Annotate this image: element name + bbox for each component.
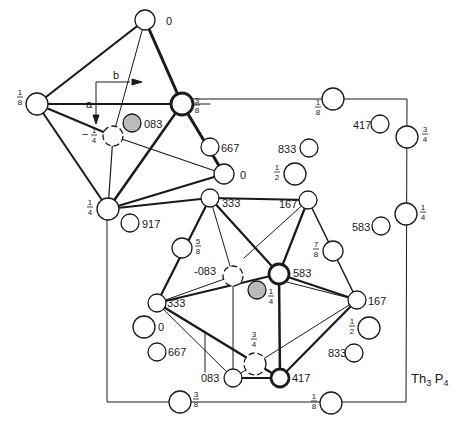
atom-label: 0 xyxy=(166,15,172,27)
axis-b-label: b xyxy=(113,69,119,81)
atom-free-half-a xyxy=(284,163,306,185)
atom-label: 667 xyxy=(221,142,239,154)
atom-label: 917 xyxy=(142,218,160,230)
atom-label: 0 xyxy=(158,321,164,333)
atom-poly-3-4 xyxy=(244,353,266,375)
atom-label: 833 xyxy=(278,143,296,155)
svg-text:3: 3 xyxy=(194,390,199,399)
atom-poly-583 xyxy=(269,264,289,284)
fraction-label: 18 xyxy=(17,88,23,107)
atom-poly-333-top xyxy=(201,189,219,207)
svg-text:4: 4 xyxy=(421,213,426,222)
atom-label: 583 xyxy=(293,267,311,279)
svg-text:1: 1 xyxy=(350,317,355,326)
svg-text:3: 3 xyxy=(252,330,257,339)
atom-oct-left xyxy=(26,93,48,115)
svg-text:7: 7 xyxy=(314,240,319,249)
svg-text:4: 4 xyxy=(423,135,428,144)
svg-text:4: 4 xyxy=(92,136,97,145)
atom-label: 0 xyxy=(240,169,246,181)
atom-shaded-1-4 xyxy=(248,281,266,299)
fraction-label: 78 xyxy=(313,240,319,259)
atom-bottom-1-8 xyxy=(320,392,342,414)
svg-text:8: 8 xyxy=(195,106,200,115)
atom-label: 667 xyxy=(168,346,186,358)
atom-label: 833 xyxy=(328,347,346,359)
svg-text:1: 1 xyxy=(275,163,280,172)
svg-text:8: 8 xyxy=(18,98,23,107)
svg-text:1: 1 xyxy=(269,287,274,296)
atom-free-583 xyxy=(372,217,390,235)
atom-poly-167-right xyxy=(348,291,366,309)
crystal-structure-diagram: b a xyxy=(0,0,457,421)
atom-label: 417 xyxy=(353,119,371,131)
b-arrow-icon xyxy=(132,79,142,85)
svg-text:8: 8 xyxy=(316,108,321,117)
atom-label: 333 xyxy=(167,297,185,309)
svg-text:5: 5 xyxy=(196,237,201,246)
atom-label: 167 xyxy=(368,295,386,307)
svg-text:1: 1 xyxy=(312,392,317,401)
svg-text:8: 8 xyxy=(194,400,199,409)
svg-text:3: 3 xyxy=(423,125,428,134)
atom-label: -083 xyxy=(194,265,216,277)
compound-title: Th3 P4 xyxy=(411,371,449,388)
svg-text:−: − xyxy=(82,128,88,140)
atom-poly-167-top xyxy=(299,191,317,209)
fraction-label: 18 xyxy=(311,392,317,411)
svg-text:1: 1 xyxy=(18,88,23,97)
atom-bottom-3-8 xyxy=(169,391,191,413)
structure-svg: b a xyxy=(0,0,457,421)
atom-free-667b xyxy=(148,343,166,361)
atom-oct-right-low xyxy=(214,164,234,184)
atom-poly-333-left xyxy=(148,294,166,312)
atom-free-667 xyxy=(201,138,219,156)
svg-text:2: 2 xyxy=(275,173,280,182)
fraction-label: 34 xyxy=(251,330,257,349)
atom-label: 083 xyxy=(144,118,162,130)
svg-text:4: 4 xyxy=(269,297,274,306)
atom-free-7-8 xyxy=(323,241,343,261)
atom-poly-417 xyxy=(271,369,289,387)
atom-free-417 xyxy=(371,115,389,133)
atom-label: 417 xyxy=(292,372,310,384)
atom-top-cell xyxy=(322,88,344,110)
atom-label: 167 xyxy=(279,198,297,210)
svg-text:4: 4 xyxy=(252,340,257,349)
atom-label: 333 xyxy=(222,197,240,209)
svg-text:1: 1 xyxy=(88,198,93,207)
svg-text:8: 8 xyxy=(196,247,201,256)
fraction-label: 14 xyxy=(268,287,274,306)
atom-edge-3-4 xyxy=(396,126,418,148)
atom-free-0 xyxy=(133,316,155,338)
atom-oct-right xyxy=(171,93,193,115)
fraction-label: 12 xyxy=(274,163,280,182)
svg-text:2: 2 xyxy=(350,327,355,336)
fraction-label: 14− xyxy=(82,126,97,145)
atom-poly-083 xyxy=(224,369,242,387)
atom-free-833a xyxy=(300,139,318,157)
fraction-label: 14 xyxy=(87,198,93,217)
fraction-label: 58 xyxy=(195,237,201,256)
atom-free-half-b xyxy=(358,317,380,339)
atom-oct-top xyxy=(135,10,155,30)
atom-label: 583 xyxy=(352,221,370,233)
svg-text:1: 1 xyxy=(316,98,321,107)
svg-text:4: 4 xyxy=(88,208,93,217)
atom-oct-bottom xyxy=(97,198,119,220)
atom-edge-1-4 xyxy=(395,203,417,225)
a-arrow-icon xyxy=(93,115,99,124)
fraction-label: 12 xyxy=(349,317,355,336)
atom-free-5-8 xyxy=(172,238,192,258)
fraction-label: 18 xyxy=(315,98,321,117)
svg-text:1: 1 xyxy=(421,203,426,212)
atom-oct-back xyxy=(103,126,123,146)
atom-label: 083 xyxy=(201,372,219,384)
fraction-label: 38 xyxy=(193,390,199,409)
atom-shaded-083 xyxy=(123,114,141,132)
fraction-label: 38 xyxy=(194,96,200,115)
svg-text:1: 1 xyxy=(92,126,97,135)
svg-text:3: 3 xyxy=(195,96,200,105)
atom-free-917 xyxy=(121,214,139,232)
svg-text:8: 8 xyxy=(312,402,317,411)
